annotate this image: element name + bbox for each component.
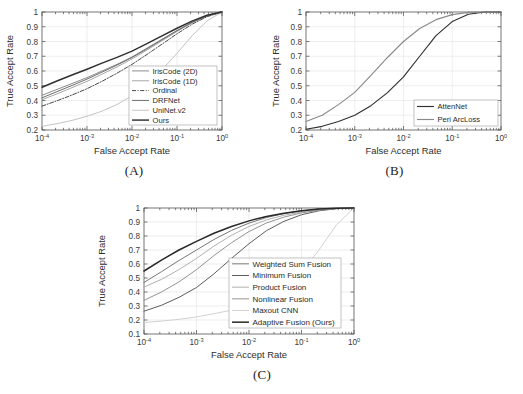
legend-label: Ordinal bbox=[153, 86, 178, 95]
svg-text:0.8: 0.8 bbox=[291, 38, 303, 47]
svg-text:1: 1 bbox=[33, 8, 38, 17]
svg-text:0.9: 0.9 bbox=[27, 23, 39, 32]
svg-text:0.8: 0.8 bbox=[129, 232, 141, 241]
svg-text:10-4: 10-4 bbox=[137, 337, 151, 347]
svg-text:0.2: 0.2 bbox=[129, 316, 141, 325]
legend-label: Minimum Fusion bbox=[253, 271, 312, 280]
svg-text:0.6: 0.6 bbox=[27, 67, 39, 76]
svg-text:10-3: 10-3 bbox=[189, 337, 203, 347]
svg-text:10-1: 10-1 bbox=[445, 133, 459, 143]
x-axis-title: False Accept Rate bbox=[94, 145, 170, 156]
legend-label: IrisCode (2D) bbox=[153, 67, 199, 76]
legend-label: Product Fusion bbox=[253, 283, 307, 292]
svg-text:0.3: 0.3 bbox=[291, 111, 303, 120]
svg-text:0.7: 0.7 bbox=[291, 52, 303, 61]
svg-text:10-2: 10-2 bbox=[396, 133, 410, 143]
roc-plot-b: 0.20.30.40.50.60.70.80.9110-410-310-210-… bbox=[266, 0, 523, 165]
y-axis-title: True Accept Rate bbox=[4, 35, 15, 107]
legend: Weighted Sum FusionMinimum FusionProduct… bbox=[229, 258, 341, 328]
svg-text:0.5: 0.5 bbox=[291, 82, 303, 91]
svg-text:10-2: 10-2 bbox=[125, 133, 139, 143]
svg-text:0.7: 0.7 bbox=[129, 246, 141, 255]
svg-text:0.5: 0.5 bbox=[129, 274, 141, 283]
svg-text:0.4: 0.4 bbox=[291, 97, 303, 106]
legend-label: UniNet.v2 bbox=[153, 106, 186, 115]
y-tick-labels: 0.10.20.30.40.50.60.70.80.91 bbox=[129, 204, 141, 339]
roc-plot-c: 0.10.20.30.40.50.60.70.80.9110-410-310-2… bbox=[92, 196, 432, 369]
svg-text:0.4: 0.4 bbox=[129, 288, 141, 297]
legend-label: Weighted Sum Fusion bbox=[253, 260, 332, 269]
svg-text:0.3: 0.3 bbox=[129, 302, 141, 311]
svg-text:0.5: 0.5 bbox=[27, 82, 39, 91]
svg-text:0.7: 0.7 bbox=[27, 52, 39, 61]
x-tick-labels: 10-410-310-210-1100 bbox=[35, 133, 228, 143]
y-axis-title: True Accept Rate bbox=[270, 35, 281, 107]
svg-text:10-3: 10-3 bbox=[80, 133, 94, 143]
y-tick-labels: 0.20.30.40.50.60.70.80.91 bbox=[27, 8, 39, 135]
svg-text:100: 100 bbox=[495, 133, 507, 143]
y-axis-title: True Accept Rate bbox=[96, 235, 107, 307]
panel-c: 0.10.20.30.40.50.60.70.80.9110-410-310-2… bbox=[92, 196, 432, 394]
svg-text:0.6: 0.6 bbox=[291, 67, 303, 76]
legend-label: Adaptive Fusion (Ours) bbox=[253, 318, 336, 327]
legend-label: IrisCode (1D) bbox=[153, 77, 199, 86]
panel-b: 0.20.30.40.50.60.70.80.9110-410-310-210-… bbox=[266, 0, 523, 192]
legend-label: Maxout CNN bbox=[253, 306, 299, 315]
legend-label: DRFNet bbox=[153, 96, 181, 105]
x-tick-labels: 10-410-310-210-1100 bbox=[137, 337, 360, 347]
legend-label: AttenNet bbox=[438, 102, 468, 111]
x-axis-title: False Accept Rate bbox=[211, 349, 287, 360]
svg-text:10-1: 10-1 bbox=[294, 337, 308, 347]
panel-a: 0.20.30.40.50.60.70.80.9110-410-310-210-… bbox=[0, 0, 268, 192]
svg-text:0.3: 0.3 bbox=[27, 111, 39, 120]
svg-text:10-4: 10-4 bbox=[299, 133, 313, 143]
svg-text:10-3: 10-3 bbox=[348, 133, 362, 143]
roc-plot-a: 0.20.30.40.50.60.70.80.9110-410-310-210-… bbox=[0, 0, 268, 165]
svg-text:10-1: 10-1 bbox=[170, 133, 184, 143]
svg-text:100: 100 bbox=[348, 337, 360, 347]
x-tick-labels: 10-410-310-210-1100 bbox=[299, 133, 507, 143]
x-axis-title: False Accept Rate bbox=[365, 145, 441, 156]
panel-b-caption: (B) bbox=[266, 163, 523, 179]
panel-c-caption: (C) bbox=[92, 367, 432, 383]
svg-text:100: 100 bbox=[216, 133, 228, 143]
legend: IrisCode (2D)IrisCode (1D)OrdinalDRFNetU… bbox=[129, 66, 217, 125]
svg-text:0.6: 0.6 bbox=[129, 260, 141, 269]
svg-text:0.9: 0.9 bbox=[291, 23, 303, 32]
svg-text:1: 1 bbox=[297, 8, 302, 17]
y-tick-labels: 0.20.30.40.50.60.70.80.91 bbox=[291, 8, 303, 135]
svg-text:1: 1 bbox=[135, 204, 140, 213]
svg-text:10-2: 10-2 bbox=[242, 337, 256, 347]
svg-text:0.8: 0.8 bbox=[27, 38, 39, 47]
legend-label: Ours bbox=[153, 116, 170, 125]
legend: AttenNetPeri ArcLoss bbox=[414, 100, 498, 126]
svg-text:0.4: 0.4 bbox=[27, 97, 39, 106]
legend-label: Peri ArcLoss bbox=[438, 115, 481, 124]
svg-text:10-4: 10-4 bbox=[35, 133, 49, 143]
panel-a-caption: (A) bbox=[0, 163, 268, 179]
legend-label: Nonlinear Fusion bbox=[253, 295, 313, 304]
svg-text:0.9: 0.9 bbox=[129, 218, 141, 227]
